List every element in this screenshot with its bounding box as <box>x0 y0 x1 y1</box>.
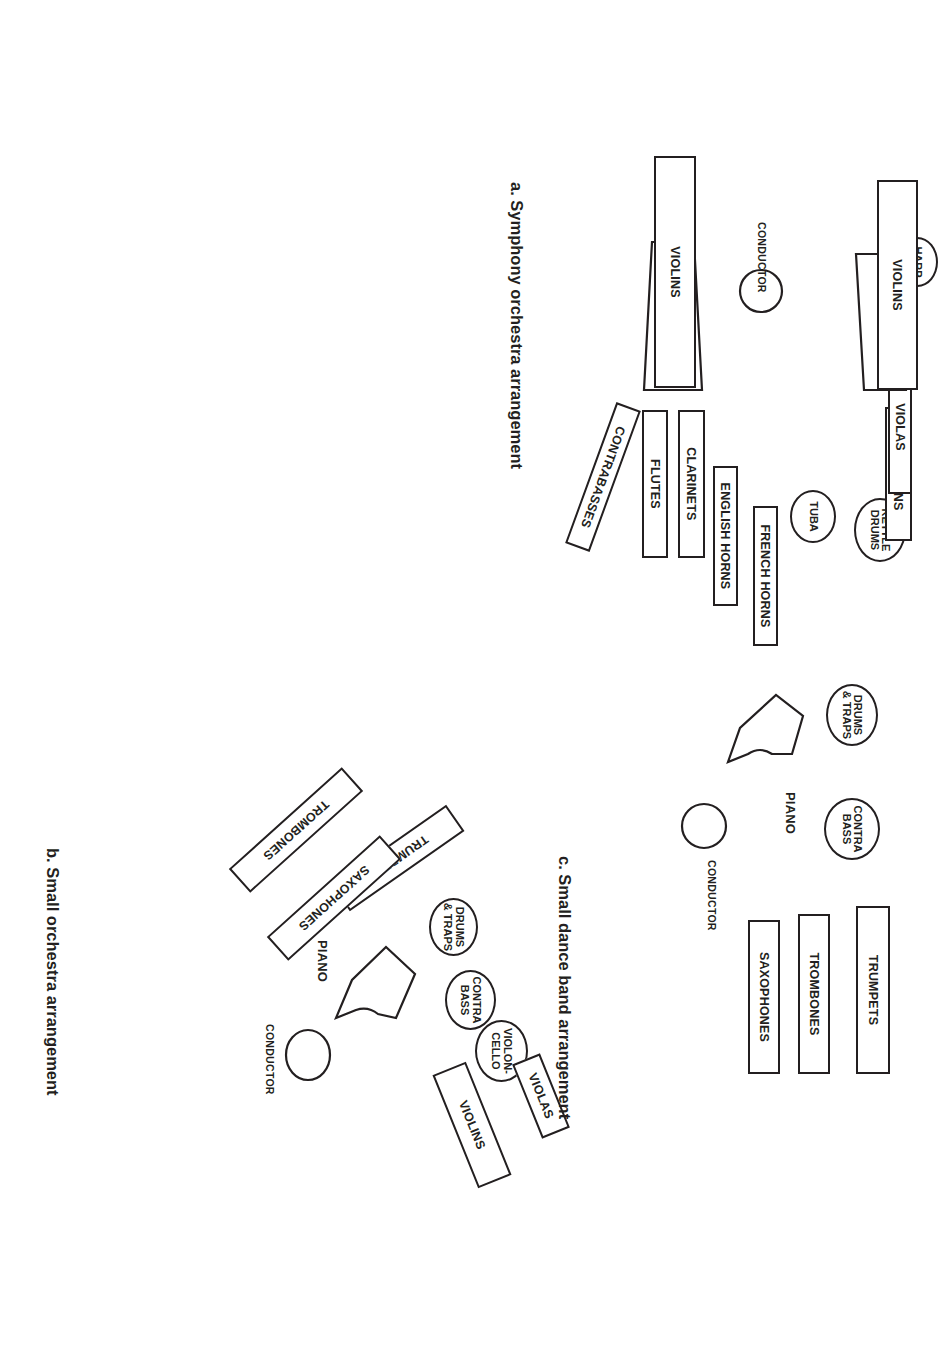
section-label: VIOLON- CELLO <box>490 1028 512 1074</box>
piano-label: PIANO <box>315 940 330 982</box>
section-drums-traps[interactable]: DRUMS & TRAPS <box>826 684 878 746</box>
section-label: TUBA <box>807 501 818 532</box>
section-violins-upper[interactable]: VIOLINS <box>877 180 918 390</box>
conductor-label: CONDUCTOR <box>264 1024 276 1095</box>
section-flutes[interactable]: FLUTES <box>642 410 668 558</box>
conductor-label: CONDUCTOR <box>706 860 718 931</box>
section-contra-bass[interactable]: CONTRA BASS <box>824 798 880 860</box>
section-label: VIOLAS <box>893 403 907 451</box>
section-label: CLARINETS <box>685 447 699 520</box>
section-label: DRUMS & TRAPS <box>841 691 863 739</box>
section-violins-lower[interactable]: VIOLINS <box>654 156 696 388</box>
section-contra-bass[interactable]: CONTRA BASS <box>445 970 496 1030</box>
section-label: VIOLINS <box>668 246 682 297</box>
section-label: SAXOPHONES <box>757 952 771 1042</box>
section-label: CONTRA BASS <box>459 976 481 1023</box>
panel-c-caption: c. Small dance band arrangement <box>555 856 574 1119</box>
section-french-horns[interactable]: FRENCH HORNS <box>753 506 778 646</box>
section-saxophones[interactable]: SAXOPHONES <box>748 920 780 1074</box>
panel-small-dance-band: DRUMS & TRAPS CONTRA BASS PIANO CONDUCTO… <box>524 648 924 1356</box>
section-label: CONTRA BASS <box>841 805 863 852</box>
section-drums-traps[interactable]: DRUMS & TRAPS <box>429 898 478 956</box>
section-label: VIOLINS <box>891 259 905 310</box>
section-tuba[interactable]: TUBA <box>790 490 836 543</box>
section-label: DRUMS & TRAPS <box>442 903 464 951</box>
section-label: ENGLISH HORNS <box>719 483 733 590</box>
section-label: CONTRABASSES <box>578 424 628 530</box>
section-clarinets[interactable]: CLARINETS <box>678 410 705 558</box>
piano-shape[interactable] <box>332 944 418 1040</box>
section-trumpets[interactable]: TRUMPETS <box>856 906 890 1074</box>
section-label: TROMBONES <box>807 952 821 1035</box>
panel-a-caption: a. Symphony orchestra arrangement <box>507 182 526 469</box>
panel-symphony-orchestra: KETTLE DRUMS TUBA BASSOONS VIOLAS VIOLAS… <box>454 0 924 700</box>
section-label: TRUMPETS <box>866 955 880 1025</box>
piano-label: PIANO <box>783 792 798 834</box>
panel-small-orchestra: DRUMS & TRAPS CONTRA BASS VIOLON- CELLO … <box>0 648 514 1356</box>
section-label: TROMBONES <box>260 797 331 863</box>
section-trombones[interactable]: TROMBONES <box>798 914 830 1074</box>
panel-b-caption: b. Small orchestra arrangement <box>43 848 62 1096</box>
conductor-label: CONDUCTOR <box>756 222 768 293</box>
section-contrabasses[interactable]: CONTRABASSES <box>565 402 641 552</box>
conductor-circle[interactable] <box>284 1028 332 1082</box>
section-label: VIOLINS <box>456 1099 488 1152</box>
section-english-horns[interactable]: ENGLISH HORNS <box>713 466 738 606</box>
section-label: FRENCH HORNS <box>759 524 773 627</box>
section-label: FLUTES <box>648 459 662 509</box>
piano-shape[interactable] <box>722 692 806 782</box>
conductor-circle[interactable] <box>680 802 728 850</box>
